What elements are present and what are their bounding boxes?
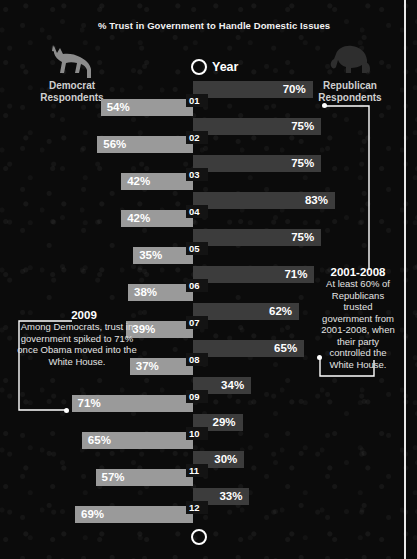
bar-value-republican: 65% (274, 340, 297, 357)
bar-democrat: 71% (72, 395, 193, 412)
bar-value-republican: 62% (269, 303, 292, 320)
bar-democrat: 69% (75, 506, 193, 523)
infographic-canvas: % Trust in Government to Handle Domestic… (0, 0, 417, 559)
bar-value-democrat: 54% (107, 99, 130, 116)
bar-republican: 71% (193, 266, 314, 283)
callout-0108-heading: 2001-2008 (318, 266, 398, 278)
bar-democrat: 65% (82, 432, 193, 449)
bar-value-democrat: 65% (88, 432, 111, 449)
year-label: 07 (186, 316, 208, 329)
donkey-icon (22, 42, 122, 80)
bar-republican: 62% (193, 303, 299, 320)
bar-row: 75%56%02 (0, 117, 417, 154)
year-label: 09 (186, 390, 208, 403)
callout-2009-endpoint-dot (64, 408, 69, 413)
bar-value-republican: 30% (214, 451, 237, 468)
callout-2001-2008: 2001-2008 At least 60% of Republicans tr… (318, 266, 398, 370)
year-label: 11 (186, 464, 208, 477)
bar-value-democrat: 69% (81, 506, 104, 523)
bar-value-democrat: 57% (102, 469, 125, 486)
bar-democrat: 54% (101, 99, 193, 116)
callout-0108-start-dot (322, 103, 327, 108)
year-label: 10 (186, 427, 208, 440)
bar-value-democrat: 42% (127, 173, 150, 190)
bar-republican: 75% (193, 155, 321, 172)
bar-value-republican: 34% (221, 377, 244, 394)
bar-value-democrat: 56% (103, 136, 126, 153)
bar-republican: 83% (193, 192, 335, 209)
bar-democrat: 42% (121, 173, 193, 190)
bar-democrat: 56% (97, 136, 193, 153)
bar-row: 33%69%12 (0, 487, 417, 524)
callout-0108-body: At least 60% of Republicans trusted gove… (318, 278, 398, 370)
bar-value-republican: 83% (305, 192, 328, 209)
bar-republican: 70% (193, 81, 313, 98)
bar-republican: 75% (193, 118, 321, 135)
axis-marker-bottom (191, 529, 207, 545)
year-label: 04 (186, 205, 208, 218)
bar-value-republican: 33% (219, 488, 242, 505)
bar-row: 30%57%11 (0, 450, 417, 487)
bar-value-republican: 75% (291, 118, 314, 135)
callout-2009-heading: 2009 (16, 309, 138, 321)
axis-year-label: Year (212, 60, 238, 74)
bar-value-republican: 29% (213, 414, 236, 431)
year-label: 01 (186, 94, 208, 107)
bar-value-republican: 70% (283, 81, 306, 98)
bar-value-democrat: 38% (134, 284, 157, 301)
bar-value-republican: 71% (284, 266, 307, 283)
bar-value-democrat: 71% (78, 395, 101, 412)
bar-value-democrat: 35% (139, 247, 162, 264)
bar-row: 75%42%03 (0, 154, 417, 191)
bar-row: 70%54%01 (0, 80, 417, 117)
right-edge-rule (404, 0, 406, 559)
bar-republican: 65% (193, 340, 304, 357)
bar-row: 75%35%05 (0, 228, 417, 265)
bar-democrat: 42% (121, 210, 193, 227)
year-label: 12 (186, 501, 208, 514)
bar-value-republican: 75% (291, 155, 314, 172)
bar-value-democrat: 42% (127, 210, 150, 227)
axis-marker-top (191, 59, 207, 75)
bar-democrat: 38% (128, 284, 193, 301)
year-label: 03 (186, 168, 208, 181)
bar-democrat: 35% (133, 247, 193, 264)
bar-value-republican: 75% (291, 229, 314, 246)
bar-row: 29%65%10 (0, 413, 417, 450)
bar-row: 34%71%09 (0, 376, 417, 413)
bar-democrat: 57% (96, 469, 193, 486)
bar-democrat: 37% (130, 358, 193, 375)
page-title: % Trust in Government to Handle Domestic… (98, 20, 330, 31)
elephant-icon (300, 42, 400, 80)
bar-value-democrat: 37% (136, 358, 159, 375)
callout-2009-body: Among Democrats, trust in government spi… (16, 321, 138, 367)
year-label: 05 (186, 242, 208, 255)
callout-2009: 2009 Among Democrats, trust in governmen… (16, 309, 138, 367)
bar-republican: 75% (193, 229, 321, 246)
year-label: 02 (186, 131, 208, 144)
year-label: 08 (186, 353, 208, 366)
bar-row: 83%42%04 (0, 191, 417, 228)
year-label: 06 (186, 279, 208, 292)
